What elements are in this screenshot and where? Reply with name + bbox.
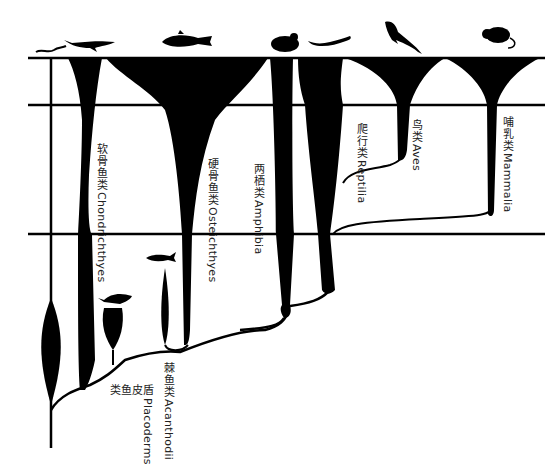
label-mammalia: 哺乳类 Mammalia	[502, 116, 513, 213]
label-aves: 鸟类 Aves	[411, 119, 422, 171]
lamprey-eel-silhouette-icon	[36, 46, 66, 52]
label-en: Aves	[411, 144, 422, 171]
label-amphibia: 两栖类 Amphibia	[253, 163, 264, 254]
mammalia-branch	[445, 58, 540, 216]
label-placoderms: 盾皮鱼类 Placoderms	[109, 384, 153, 465]
swallow-bird-silhouette-icon	[385, 22, 422, 54]
label-zh: 两栖类	[253, 163, 264, 199]
label-zh: 软骨鱼类	[96, 143, 107, 191]
vertebrate-evolution-diagram	[0, 0, 554, 465]
label-zh: 爬行类	[356, 123, 367, 159]
bony-fish-silhouette-icon	[162, 30, 212, 47]
amphibia-branch	[240, 58, 294, 330]
reptilia-branch	[290, 58, 493, 306]
placoderm-fish-silhouette-icon	[98, 294, 132, 304]
frog-silhouette-icon	[271, 33, 299, 52]
label-en: Acanthodii	[163, 399, 174, 460]
label-zh: 哺乳类	[502, 116, 513, 152]
label-en: Chondrichthyes	[96, 192, 107, 282]
label-zh: 棘鱼类	[163, 362, 174, 398]
label-en: Reptilia	[356, 160, 367, 204]
label-en: Placoderms	[109, 398, 153, 465]
label-chondrichthyes: 软骨鱼类 Chondrichthyes	[96, 143, 107, 282]
label-osteichthyes: 硬骨鱼类 Osteichthyes	[207, 158, 218, 282]
placoderms-branch	[103, 308, 123, 365]
lizard-silhouette-icon	[308, 36, 351, 46]
label-acanthodii: 棘鱼类 Acanthodii	[163, 362, 174, 460]
label-en: Amphibia	[253, 200, 264, 254]
shark-silhouette-icon	[64, 40, 115, 52]
acanthodian-fish-silhouette-icon	[146, 252, 176, 262]
mouse-silhouette-icon	[482, 27, 515, 48]
label-reptilia: 爬行类 Reptilia	[356, 123, 367, 204]
label-en: Mammalia	[502, 153, 513, 213]
label-zh: 鸟类	[411, 119, 422, 143]
label-zh: 盾皮鱼类	[109, 384, 153, 397]
osteichthyes-branch	[106, 58, 268, 345]
label-zh: 硬骨鱼类	[207, 158, 218, 206]
label-en: Osteichthyes	[207, 207, 218, 282]
